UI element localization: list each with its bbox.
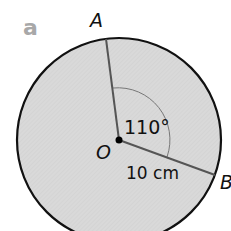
part-label: a: [23, 15, 38, 40]
point-O-label: O: [96, 141, 111, 163]
circle-diagram: a A O B 110° 10 cm: [0, 0, 231, 231]
radius-label: 10 cm: [126, 163, 179, 183]
center-point: [116, 137, 123, 144]
angle-label: 110°: [124, 116, 170, 138]
point-B-label: B: [220, 171, 231, 193]
point-A-label: A: [88, 9, 103, 31]
